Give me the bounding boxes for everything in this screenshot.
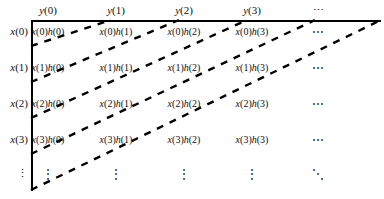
matrix-ellipsis: ⋮	[14, 166, 82, 182]
table-top-border	[31, 20, 381, 22]
matrix-cell: x(0)h(0)	[14, 25, 82, 39]
matrix-cell: x(2)h(1)	[82, 97, 150, 111]
matrix-ellipsis: ⋮	[82, 166, 150, 182]
matrix-cell: x(1)h(0)	[14, 61, 82, 75]
matrix-cell: x(2)h(0)	[14, 97, 82, 111]
matrix-ellipsis: ⋯	[284, 61, 352, 75]
matrix-ellipsis: ⋱	[284, 166, 352, 182]
matrix-cell: x(3)h(1)	[82, 133, 150, 147]
matrix-cell: x(1)h(2)	[150, 61, 218, 75]
matrix-cell: x(0)h(2)	[150, 25, 218, 39]
column-header-c3: y(3)	[218, 2, 286, 18]
matrix-cell: x(3)h(3)	[218, 133, 286, 147]
matrix-ellipsis: ⋯	[284, 97, 352, 111]
column-header-c4: ⋯	[284, 2, 352, 18]
matrix-cell: x(2)h(3)	[218, 97, 286, 111]
matrix-cell: x(1)h(3)	[218, 61, 286, 75]
matrix-ellipsis: ⋮	[218, 166, 286, 182]
matrix-cell: x(3)h(2)	[150, 133, 218, 147]
matrix-cell: x(3)h(0)	[14, 133, 82, 147]
matrix-cell: x(1)h(1)	[82, 61, 150, 75]
convolution-matrix-figure: y(0)y(1)y(2)y(3)⋯ x(0)x(1)x(2)x(3)⋮ x(0)…	[0, 0, 384, 199]
matrix-ellipsis: ⋮	[150, 166, 218, 182]
column-header-c2: y(2)	[150, 2, 218, 18]
matrix-cell: x(0)h(3)	[218, 25, 286, 39]
matrix-cell: x(2)h(2)	[150, 97, 218, 111]
matrix-ellipsis: ⋯	[284, 25, 352, 39]
column-header-c0: y(0)	[14, 2, 82, 18]
matrix-ellipsis: ⋯	[284, 133, 352, 147]
matrix-cell: x(0)h(1)	[82, 25, 150, 39]
column-header-c1: y(1)	[82, 2, 150, 18]
